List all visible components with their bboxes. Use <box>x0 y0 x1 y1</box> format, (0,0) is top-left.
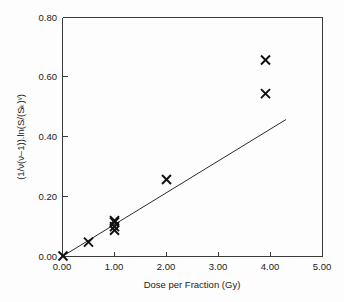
y-tick-label: 0.00 <box>39 251 58 262</box>
x-tick-label: 0.00 <box>53 261 72 272</box>
regression-fit-line <box>63 120 286 257</box>
x-axis-title: Dose per Fraction (Gy) <box>144 279 241 290</box>
data-points <box>59 56 271 261</box>
scatter-plot: 0.00 1.00 2.00 3.00 4.00 5.00 0.00 0.20 … <box>0 0 344 302</box>
y-axis-ticks <box>63 18 68 257</box>
x-tick-label: 1.00 <box>105 261 124 272</box>
y-tick-label: 0.80 <box>39 12 58 23</box>
x-tick-label: 3.00 <box>209 261 228 272</box>
chart-figure: 0.00 1.00 2.00 3.00 4.00 5.00 0.00 0.20 … <box>0 0 344 302</box>
data-point-marker <box>261 89 270 98</box>
x-tick-label: 5.00 <box>313 261 332 272</box>
x-tick-label: 4.00 <box>261 261 280 272</box>
data-point-marker <box>162 175 171 184</box>
x-axis-tick-labels: 0.00 1.00 2.00 3.00 4.00 5.00 <box>53 261 332 272</box>
plot-frame <box>63 18 323 257</box>
y-tick-label: 0.40 <box>39 131 58 142</box>
y-axis-tick-labels: 0.00 0.20 0.40 0.60 0.80 <box>39 12 58 262</box>
x-tick-label: 2.00 <box>157 261 176 272</box>
y-tick-label: 0.60 <box>39 71 58 82</box>
y-tick-label: 0.20 <box>39 191 58 202</box>
data-point-marker <box>261 56 270 65</box>
y-axis-title: (1/ν(ν–1)).ln(S/(Sₖ)ᵛ) <box>15 94 26 180</box>
x-axis-ticks <box>63 252 323 257</box>
